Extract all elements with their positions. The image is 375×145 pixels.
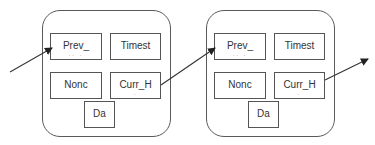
field-sublabel: . (275, 90, 324, 96)
block-2-timestamp-field: Timest (274, 33, 325, 60)
field-label: Timest (111, 40, 160, 51)
blockchain-diagram: Prev_ .. . Timest Nonc Curr_H . Da Prev_… (0, 0, 375, 145)
block-2-curr-hash-field: Curr_H . (274, 72, 325, 99)
field-label: Da (249, 108, 278, 119)
field-sublabel: .. . (215, 51, 265, 57)
block-2-prev-hash-field: Prev_ .. . (214, 33, 266, 60)
block-2-data-field: Da (248, 101, 279, 128)
field-label: Da (85, 108, 114, 119)
field-label: Nonc (51, 79, 101, 90)
field-label: Curr_H (111, 79, 160, 90)
field-label: Prev_ (51, 40, 101, 51)
field-label: Prev_ (215, 40, 265, 51)
field-label: Timest (275, 40, 324, 51)
block-1-data-field: Da (84, 101, 115, 128)
field-sublabel: . (111, 90, 160, 96)
block-1-prev-hash-field: Prev_ .. . (50, 33, 102, 60)
block-1-timestamp-field: Timest (110, 33, 161, 60)
field-sublabel: .. . (51, 51, 101, 57)
field-label: Nonc (215, 79, 265, 90)
block-1-curr-hash-field: Curr_H . (110, 72, 161, 99)
block-2-nonce-field: Nonc (214, 72, 266, 99)
block-1-nonce-field: Nonc (50, 72, 102, 99)
field-label: Curr_H (275, 79, 324, 90)
